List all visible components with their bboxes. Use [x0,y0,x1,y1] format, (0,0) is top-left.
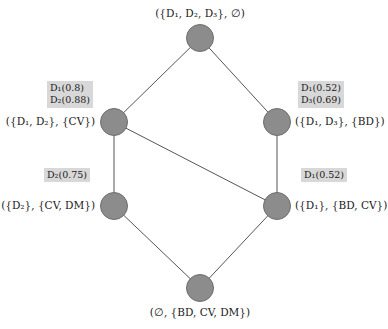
annotation-value: D₁(0.52) [301,82,341,94]
node-bottom[interactable] [186,274,214,302]
node-right-lower[interactable] [263,192,291,220]
edge-right-lower-bottom [200,206,277,288]
node-top-label: ({D₁, D₂, D₃}, ∅) [155,7,244,20]
node-right-lower-annotation: D₁(0.52) [301,168,347,182]
node-right-upper-label: ({D₁, D₃}, {BD}) [295,115,385,128]
node-right-upper-annotation: D₁(0.52) D₃(0.69) [298,81,344,108]
annotation-value: D₁(0.52) [304,169,344,181]
node-left-lower[interactable] [100,192,128,220]
edge-top-left-upper [114,38,200,122]
lattice-diagram: ({D₁, D₂, D₃}, ∅) D₁(0.8) D₂(0.88) ({D₁,… [0,0,388,329]
annotation-value: D₃(0.69) [301,94,341,106]
annotation-value: D₁(0.8) [50,82,90,94]
node-right-upper[interactable] [263,108,291,136]
node-bottom-label: (∅, {BD, CV, DM}) [150,306,250,319]
node-right-lower-label: ({D₁}, {BD, CV}) [295,199,387,212]
node-left-upper-annotation: D₁(0.8) D₂(0.88) [47,81,93,108]
edge-left-lower-bottom [114,206,200,288]
node-left-lower-label: ({D₂}, {CV, DM}) [1,199,95,212]
node-left-upper[interactable] [100,108,128,136]
annotation-value: D₂(0.75) [47,169,87,181]
node-left-lower-annotation: D₂(0.75) [44,168,90,182]
node-top[interactable] [186,24,214,52]
node-left-upper-label: ({D₁, D₂}, {CV}) [6,115,95,128]
annotation-value: D₂(0.88) [50,94,90,106]
edge-left-upper-right-lower [114,122,277,206]
edge-top-right-upper [200,38,277,122]
